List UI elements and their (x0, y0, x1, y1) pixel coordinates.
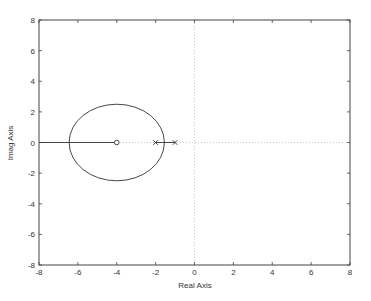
y-tick-label: -2 (28, 169, 36, 178)
y-tick-label: 4 (31, 77, 36, 86)
y-tick-label: -6 (28, 230, 36, 239)
x-tick-label: 2 (231, 268, 236, 277)
x-tick-label: -6 (74, 268, 82, 277)
plot-area: -8-6-4-202468-8-6-4-202468 (28, 16, 353, 277)
y-tick-label: 8 (31, 16, 36, 25)
x-tick-label: -2 (152, 268, 160, 277)
x-tick-label: 4 (270, 268, 275, 277)
y-tick-label: 2 (31, 108, 36, 117)
x-tick-label: 8 (348, 268, 353, 277)
zero-marker (114, 140, 119, 145)
x-tick-label: -4 (113, 268, 121, 277)
x-tick-label: 0 (192, 268, 197, 277)
root-locus-chart: -8-6-4-202468-8-6-4-202468 Real Axis Ima… (0, 0, 371, 301)
y-axis-label: Imag Axis (6, 126, 15, 161)
x-tick-label: 6 (309, 268, 314, 277)
y-tick-label: -8 (28, 261, 36, 270)
x-axis-label: Real Axis (178, 281, 211, 290)
x-tick-label: -8 (35, 268, 43, 277)
y-tick-label: -4 (28, 200, 36, 209)
y-tick-label: 6 (31, 47, 36, 56)
y-tick-label: 0 (31, 139, 36, 148)
